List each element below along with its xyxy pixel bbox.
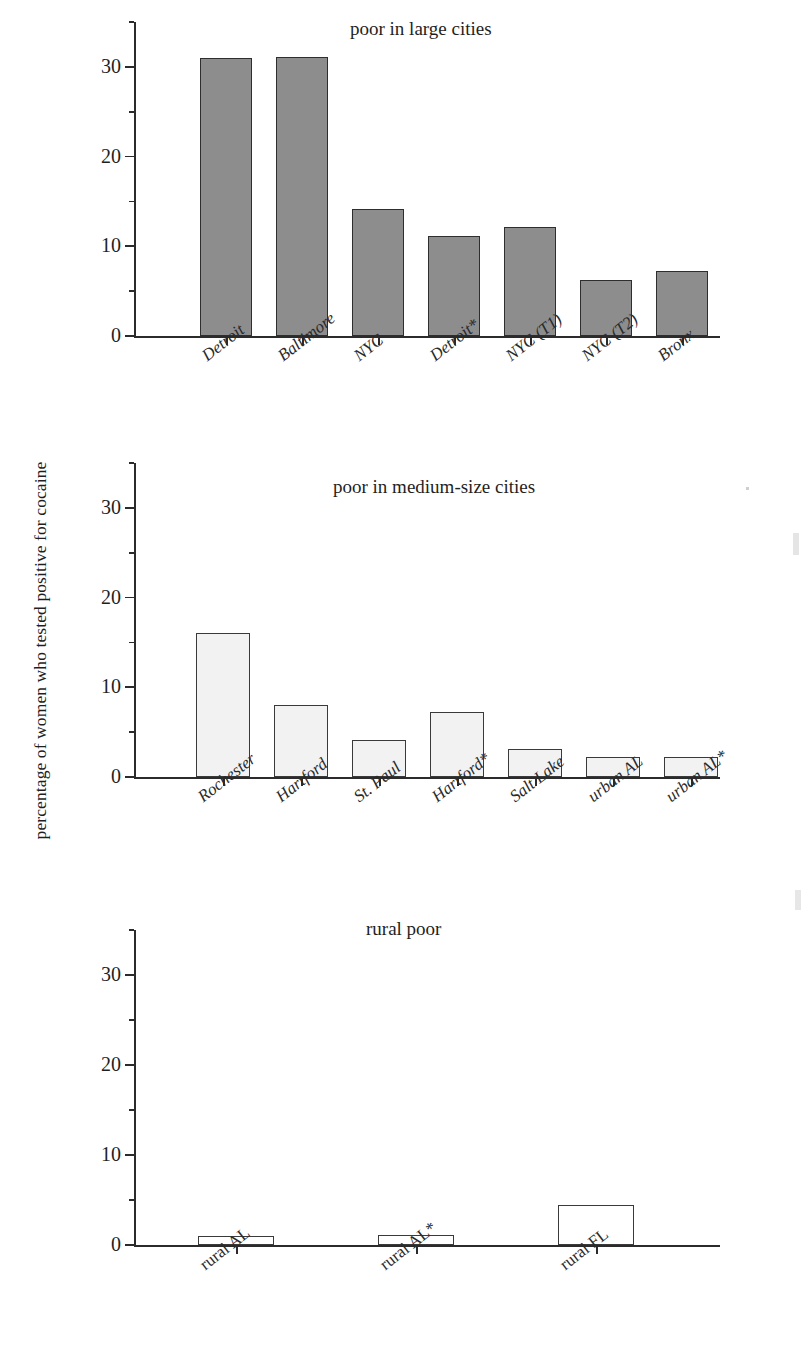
y-tick-label: 0 — [111, 325, 121, 345]
y-axis-line — [134, 22, 136, 336]
scan-artifact-2 — [793, 533, 799, 555]
y-tick-minor — [129, 642, 135, 644]
y-tick-minor — [129, 1109, 135, 1111]
bar — [352, 209, 404, 336]
y-tick-major — [125, 1064, 134, 1066]
y-tick-major — [125, 1244, 134, 1246]
y-tick-label: 0 — [111, 766, 121, 786]
y-tick-label: 30 — [101, 497, 121, 517]
y-tick-minor — [129, 111, 135, 113]
y-tick-major — [125, 156, 134, 158]
y-tick-minor — [129, 731, 135, 733]
chart-panel-rural: 0102030rural poorrural ALrural AL*rural … — [0, 890, 812, 1350]
plot-area: 0102030 — [134, 463, 720, 777]
bar — [656, 271, 708, 336]
chart-title: poor in large cities — [350, 18, 492, 40]
chart-panel-medium-cities: 0102030poor in medium-size citiesRochest… — [0, 450, 812, 900]
y-tick-major — [125, 597, 134, 599]
plot-area: 0102030 — [134, 22, 720, 336]
y-tick-label: 20 — [101, 1054, 121, 1074]
chart-panel-large-cities: 0102030poor in large citiesDetroitBaltim… — [0, 0, 812, 450]
y-tick-major — [125, 686, 134, 688]
bar — [200, 58, 252, 336]
y-tick-label: 0 — [111, 1234, 121, 1254]
y-tick-label: 20 — [101, 146, 121, 166]
y-tick-major — [125, 66, 134, 68]
y-tick-major — [125, 335, 134, 337]
bar — [276, 57, 328, 336]
scan-artifact-3 — [795, 890, 801, 910]
y-tick-label: 20 — [101, 587, 121, 607]
y-tick-major — [125, 507, 134, 509]
y-tick-major — [125, 974, 134, 976]
y-tick-minor — [129, 1199, 135, 1201]
y-tick-major — [125, 245, 134, 247]
y-tick-label: 10 — [101, 1144, 121, 1164]
chart-title: poor in medium-size cities — [333, 476, 535, 498]
y-axis-line — [134, 930, 136, 1245]
y-tick-minor — [129, 462, 135, 464]
y-tick-major — [125, 776, 134, 778]
scan-artifact-1 — [746, 487, 749, 490]
y-tick-label: 10 — [101, 235, 121, 255]
y-axis-line — [134, 463, 136, 777]
chart-title: rural poor — [366, 918, 441, 940]
y-tick-minor — [129, 1019, 135, 1021]
y-tick-minor — [129, 552, 135, 554]
y-tick-label: 10 — [101, 676, 121, 696]
y-tick-label: 30 — [101, 964, 121, 984]
y-tick-major — [125, 1154, 134, 1156]
plot-area: 0102030 — [134, 930, 720, 1245]
y-tick-minor — [129, 290, 135, 292]
y-tick-minor — [129, 21, 135, 23]
y-tick-minor — [129, 929, 135, 931]
y-tick-label: 30 — [101, 56, 121, 76]
y-tick-minor — [129, 201, 135, 203]
figure-root: percentage of women who tested positive … — [0, 0, 812, 1366]
